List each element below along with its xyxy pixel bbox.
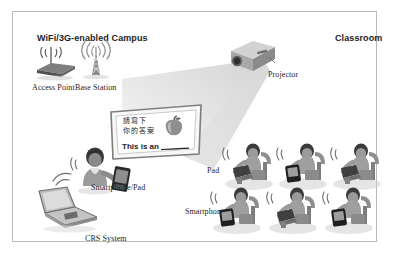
diagram-frame: WiFi/3G-enabled Campus Classroom Access … (12, 11, 377, 242)
wireless-router-icon (33, 42, 79, 80)
student-seat (321, 184, 379, 236)
laptop-icon (23, 167, 103, 235)
board-english-prompt: This is an ____. (122, 142, 181, 151)
diagram-canvas: WiFi/3G-enabled Campus Classroom Access … (0, 0, 395, 263)
student-seat (209, 184, 267, 236)
board-chinese-line-1: 請寫下 (123, 115, 147, 125)
board-chinese-line-2: 你的答案 (123, 125, 155, 135)
projector-label: Projector (268, 70, 298, 79)
base-station-label: Base Station (75, 83, 116, 92)
access-point-label: Access Point (32, 83, 75, 92)
zone-label-classroom: Classroom (335, 33, 382, 43)
crs-system-label: CRS System (85, 234, 127, 243)
pad-label: Pad (207, 166, 219, 175)
student-seat (265, 184, 323, 236)
cell-tower-icon (75, 39, 119, 81)
